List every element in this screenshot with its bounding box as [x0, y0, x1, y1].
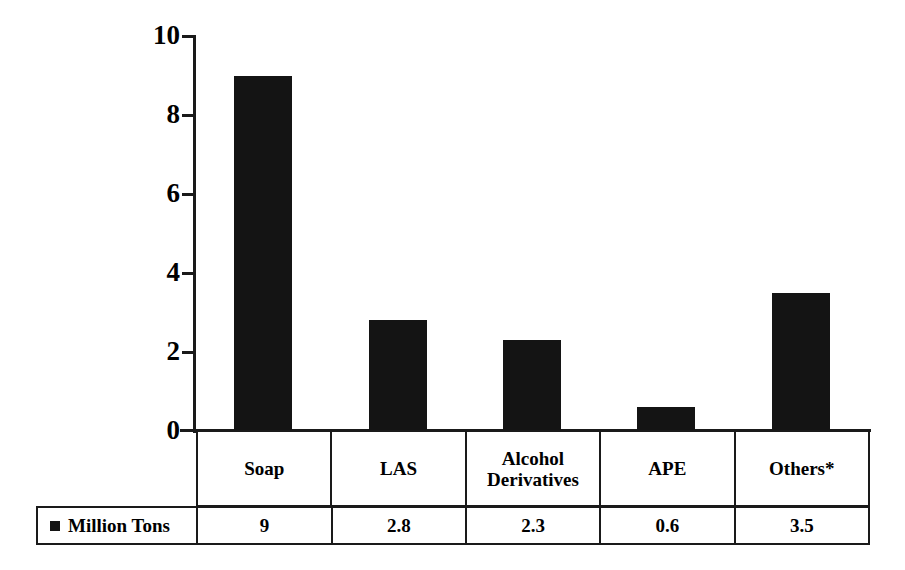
category-cell-ape: APE	[600, 431, 734, 506]
legend-label: Million Tons	[68, 515, 170, 536]
legend-cell: Million Tons	[37, 507, 197, 544]
category-header-table: Soap LAS Alcohol Derivatives APE Others*	[196, 430, 870, 507]
table-row-values: Million Tons 9 2.8 2.3 0.6 3.5	[37, 507, 869, 544]
category-cell-soap: Soap	[197, 431, 331, 506]
bars-layer	[0, 0, 905, 431]
category-cell-alcohol-derivatives: Alcohol Derivatives	[466, 431, 600, 506]
bar-ape	[637, 407, 695, 431]
bar-chart-figure: 10 8 6 4 2 0	[0, 0, 905, 570]
table-row-categories: Soap LAS Alcohol Derivatives APE Others*	[197, 431, 869, 506]
bar-alcohol-derivatives	[503, 340, 561, 431]
bar-las	[369, 320, 427, 431]
value-legend-table: Million Tons 9 2.8 2.3 0.6 3.5	[36, 506, 870, 545]
value-cell-ape: 0.6	[600, 507, 734, 544]
bar-soap	[234, 76, 292, 432]
value-cell-alcohol-derivatives: 2.3	[466, 507, 600, 544]
plot-area: 10 8 6 4 2 0	[0, 0, 905, 445]
value-cell-las: 2.8	[332, 507, 466, 544]
bar-others	[772, 293, 830, 431]
value-cell-others: 3.5	[735, 507, 869, 544]
category-cell-las: LAS	[331, 431, 465, 506]
category-cell-others: Others*	[735, 431, 869, 506]
square-marker-icon	[50, 521, 60, 531]
value-cell-soap: 9	[197, 507, 331, 544]
